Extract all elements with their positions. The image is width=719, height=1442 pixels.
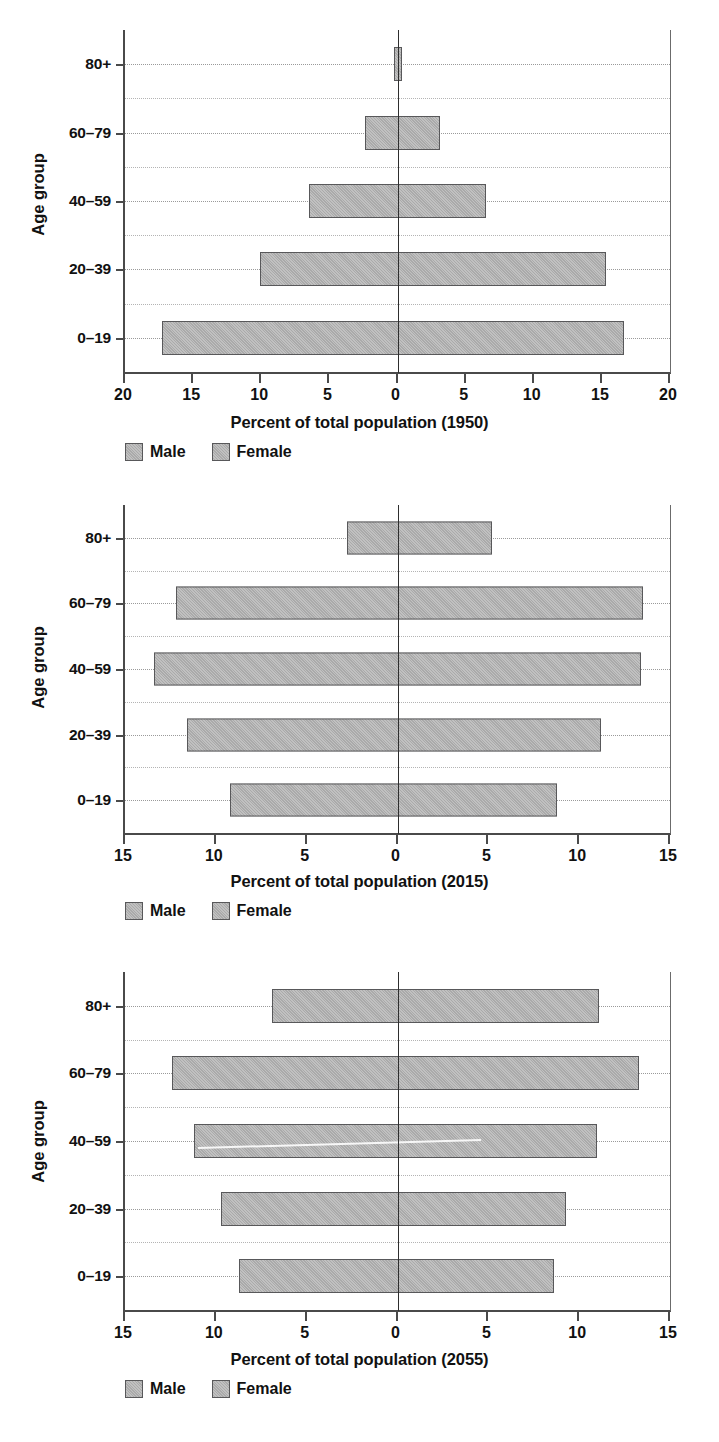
y-axis-title: Age group <box>29 135 48 255</box>
y-axis-tick-label: 80+ <box>85 997 111 1015</box>
x-axis-tick-label: 10 <box>250 386 268 404</box>
x-axis-tick <box>668 374 670 383</box>
x-axis-tick-label: 15 <box>182 386 200 404</box>
x-axis-tick <box>668 835 670 844</box>
y-axis-tick-label: 0–19 <box>77 329 111 347</box>
legend-label-male: Male <box>150 902 186 920</box>
y-axis-tick <box>116 603 125 605</box>
legend-swatch-female-icon <box>212 1380 230 1398</box>
x-axis-title-2055: Percent of total population (2055) <box>0 1350 719 1369</box>
legend-label-female: Female <box>237 1380 292 1398</box>
x-axis-tick <box>668 1312 670 1321</box>
plot-area-2055: 0–1920–3940–5960–7980+ <box>123 972 671 1312</box>
x-axis-tick <box>305 1312 307 1321</box>
y-axis-tick-label: 40–59 <box>69 192 111 210</box>
pyramid-bar <box>162 321 624 355</box>
x-axis-tick-label: 10 <box>568 847 586 865</box>
x-axis-tick <box>214 1312 216 1321</box>
y-axis-tick-label: 0–19 <box>77 1267 111 1285</box>
x-axis-tick-label: 10 <box>205 1324 223 1342</box>
x-axis-tick <box>577 835 579 844</box>
pyramid-bar <box>172 1056 639 1090</box>
legend-item-male: Male <box>125 443 186 461</box>
x-axis-tick-label: 15 <box>114 847 132 865</box>
zero-center-line <box>398 30 399 373</box>
y-axis-tick <box>116 1141 125 1143</box>
x-axis-tick <box>191 374 193 383</box>
legend-swatch-female-icon <box>212 443 230 461</box>
y-axis-tick-label: 60–79 <box>69 594 111 612</box>
x-axis-tick <box>577 1312 579 1321</box>
x-axis-tick <box>123 374 125 383</box>
y-axis-tick <box>116 735 125 737</box>
pyramid-bar <box>176 587 643 620</box>
y-axis-tick <box>116 1276 125 1278</box>
y-axis-tick-label: 20–39 <box>69 1200 111 1218</box>
x-axis-tick <box>123 835 125 844</box>
y-axis-tick-label: 20–39 <box>69 260 111 278</box>
x-axis-tick <box>123 1312 125 1321</box>
x-axis-tick-label: 5 <box>459 386 468 404</box>
y-axis-tick-label: 40–59 <box>69 1132 111 1150</box>
legend-swatch-male-icon <box>125 902 143 920</box>
y-axis-tick <box>116 269 125 271</box>
pyramid-panel-1950: Age group 0–1920–3940–5960–7980+ 2015105… <box>0 0 719 480</box>
x-axis-tick-label: 0 <box>391 386 400 404</box>
legend-item-female: Female <box>212 443 292 461</box>
pyramid-bar <box>260 252 606 286</box>
zero-center-line <box>398 972 399 1311</box>
x-axis-tick <box>305 835 307 844</box>
plot-area-1950: 0–1920–3940–5960–7980+ <box>123 30 671 374</box>
x-axis-tick <box>486 1312 488 1321</box>
legend-swatch-female-icon <box>212 902 230 920</box>
pyramid-bar <box>194 1124 597 1158</box>
x-axis-tick-label: 0 <box>391 1324 400 1342</box>
x-axis-tick-label: 5 <box>323 386 332 404</box>
x-axis-tick <box>214 835 216 844</box>
y-axis-tick <box>116 669 125 671</box>
y-axis-tick-label: 80+ <box>85 529 111 547</box>
legend-label-male: Male <box>150 1380 186 1398</box>
y-axis-tick <box>116 1006 125 1008</box>
legend-swatch-male-icon <box>125 1380 143 1398</box>
y-axis-tick <box>116 201 125 203</box>
legend-label-female: Female <box>237 902 292 920</box>
x-axis-tick-label: 10 <box>568 1324 586 1342</box>
y-axis-tick-label: 60–79 <box>69 124 111 142</box>
x-axis-tick-label: 5 <box>482 847 491 865</box>
y-axis-tick-label: 40–59 <box>69 660 111 678</box>
legend-1950: Male Female <box>125 443 292 461</box>
x-axis-tick <box>396 835 398 844</box>
x-axis-tick-label: 0 <box>391 847 400 865</box>
pyramid-panel-2055: Age group 0–1920–3940–5960–7980+ 1510505… <box>0 950 719 1442</box>
x-axis-tick <box>396 1312 398 1321</box>
x-axis-tick-label: 15 <box>659 847 677 865</box>
legend-label-female: Female <box>237 443 292 461</box>
x-axis-tick-label: 20 <box>114 386 132 404</box>
zero-center-line <box>398 505 399 834</box>
legend-label-male: Male <box>150 443 186 461</box>
x-axis-tick-label: 5 <box>300 847 309 865</box>
pyramid-bar <box>187 718 601 751</box>
legend-item-female: Female <box>212 902 292 920</box>
pyramid-bar <box>221 1192 566 1226</box>
pyramid-bar <box>347 521 492 554</box>
y-axis-tick <box>116 338 125 340</box>
y-axis-title: Age group <box>29 608 48 728</box>
x-axis-tick-label: 15 <box>114 1324 132 1342</box>
y-axis-tick <box>116 64 125 66</box>
x-axis-tick <box>327 374 329 383</box>
x-axis-tick-label: 5 <box>482 1324 491 1342</box>
x-axis-tick-label: 10 <box>205 847 223 865</box>
y-axis-title: Age group <box>29 1082 48 1202</box>
x-axis-tick <box>396 374 398 383</box>
x-axis-title-1950: Percent of total population (1950) <box>0 413 719 432</box>
y-axis-tick <box>116 133 125 135</box>
legend-item-male: Male <box>125 902 186 920</box>
plot-area-2015: 0–1920–3940–5960–7980+ <box>123 505 671 835</box>
x-axis-tick-label: 15 <box>591 386 609 404</box>
legend-2055: Male Female <box>125 1380 292 1398</box>
x-axis-tick <box>600 374 602 383</box>
legend-item-male: Male <box>125 1380 186 1398</box>
figure-population-pyramids: Age group 0–1920–3940–5960–7980+ 2015105… <box>0 0 719 1442</box>
